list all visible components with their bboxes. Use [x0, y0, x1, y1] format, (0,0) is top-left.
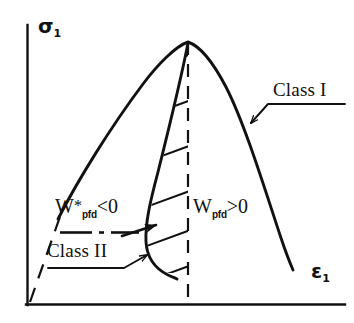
hatched-region	[114, 47, 210, 292]
work-left-relation: <0	[97, 195, 118, 217]
y-axis-symbol: σ	[38, 14, 54, 38]
class-i-label: Class I	[273, 80, 327, 99]
diagram-canvas	[0, 0, 354, 323]
work-left-subscript: pfd	[82, 209, 97, 220]
x-axis-subscript: 1	[322, 272, 330, 285]
class-ii-label: Class II	[47, 241, 107, 260]
work-left-symbol: W	[55, 195, 74, 217]
axis-lines	[26, 25, 345, 305]
work-left-label: W*pfd<0	[55, 196, 118, 216]
class-i-leader-line[interactable]	[251, 104, 345, 123]
work-right-relation: >0	[227, 195, 248, 217]
work-left-superscript: *	[74, 197, 82, 214]
figure-root: σ1 ε1 Class I Class II W*pfd<0 Wpfd>0	[0, 0, 354, 323]
y-axis-subscript: 1	[54, 27, 62, 40]
work-right-label: Wpfd>0	[193, 196, 248, 216]
y-axis-label: σ1	[38, 16, 61, 36]
x-axis-symbol: ε	[311, 259, 322, 283]
work-right-symbol: W	[193, 195, 212, 217]
work-right-subscript: pfd	[212, 209, 227, 220]
work-direction-arrow	[122, 225, 156, 236]
x-axis-label: ε1	[311, 261, 330, 281]
